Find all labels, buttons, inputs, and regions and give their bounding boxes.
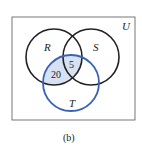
- set-r-label: R: [43, 41, 51, 53]
- venn-diagram: U R S T 5 20 (b): [0, 0, 142, 149]
- set-t-label: T: [69, 97, 76, 109]
- region-value-rst: 5: [69, 59, 74, 70]
- caption: (b): [63, 132, 75, 144]
- set-s-label: S: [93, 41, 99, 53]
- region-value-rt: 20: [51, 69, 61, 80]
- universe-label: U: [122, 20, 131, 32]
